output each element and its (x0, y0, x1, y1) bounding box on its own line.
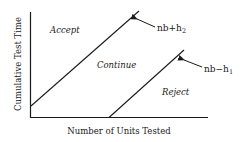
upper-arrow-icon (137, 19, 155, 27)
y-axis-label: Cumulative Test Time (13, 17, 23, 111)
upper-boundary-line (31, 11, 139, 106)
sprt-diagram: nb+h2 nb−h1 Accept Continue Reject Numbe… (0, 0, 241, 142)
lower-arrow-icon (184, 60, 202, 67)
continue-region-label: Continue (97, 60, 136, 70)
x-axis-label: Number of Units Tested (67, 126, 171, 136)
accept-region-label: Accept (49, 25, 80, 35)
lower-line-label: nb−h1 (204, 64, 233, 76)
reject-region-label: Reject (161, 87, 190, 97)
upper-line-label: nb+h2 (157, 23, 186, 35)
